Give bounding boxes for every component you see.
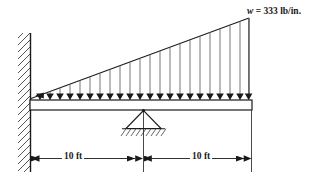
diagram-canvas [0,0,316,182]
fixed-wall-support [16,26,31,182]
wall-hatching [16,26,30,182]
dimension-label-left: 10 ft [62,152,84,162]
dimension-label-right: 10 ft [190,152,212,162]
distributed-load-diagram [31,18,252,100]
beam-diagram-figure: w = 333 lb/in. 10 ft 10 ft [0,0,316,182]
beam-member [30,100,252,110]
load-magnitude-label: w = 333 lb/in. [247,7,301,17]
load-units: lb/in. [280,6,301,16]
load-arrowheads [36,93,252,100]
load-equals-sign: = [256,6,261,16]
load-value: 333 [264,6,278,16]
dimension-extension-lines [144,111,252,173]
